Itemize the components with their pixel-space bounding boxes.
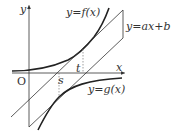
origin-label: O <box>17 76 26 87</box>
s-label: s <box>58 75 64 86</box>
tangent-line-upper <box>11 10 123 117</box>
line-label: y=ax+b <box>126 21 170 32</box>
g-curve-label: y=g(x) <box>88 84 125 95</box>
f-curve-label: y=f(x) <box>66 7 100 18</box>
y-axis-label: y <box>20 4 26 15</box>
t-label: t <box>76 63 80 74</box>
diagram: y x O y=f(x) y=g(x) y=ax+b s t <box>0 0 175 134</box>
x-axis-label: x <box>116 62 122 73</box>
